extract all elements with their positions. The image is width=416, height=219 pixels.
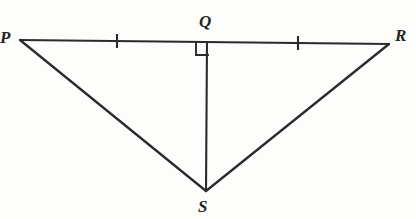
- segment-QS: [206, 42, 207, 191]
- vertex-label-R: R: [395, 27, 406, 44]
- segment-PS: [20, 40, 206, 191]
- segment-PR: [20, 40, 389, 44]
- vertex-label-P: P: [0, 29, 10, 46]
- vertex-label-S: S: [198, 198, 207, 215]
- triangle-diagram-svg: [0, 0, 416, 219]
- segment-SR: [206, 44, 389, 191]
- geometry-figure-canvas: P Q R S: [0, 0, 416, 219]
- vertex-label-Q: Q: [199, 13, 211, 30]
